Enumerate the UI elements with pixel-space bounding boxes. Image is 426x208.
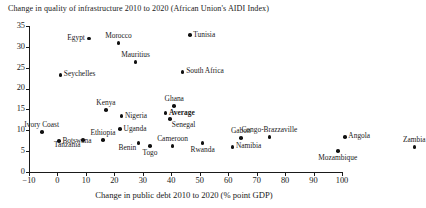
data-point-label: Angola — [348, 132, 370, 140]
x-axis-tick-label: 20 — [99, 177, 129, 185]
data-point — [87, 37, 91, 41]
data-point-label: Tunisia — [193, 31, 215, 39]
data-point-label: Seychelles — [64, 70, 96, 78]
data-point — [268, 135, 272, 139]
data-point — [118, 127, 122, 131]
data-point-label: Average — [169, 109, 195, 117]
y-axis-tick-label: 20 — [3, 84, 25, 92]
x-axis-tick-label: −10 — [14, 177, 44, 185]
data-point-label: South Africa — [186, 67, 224, 75]
y-axis-tick-label: 10 — [3, 126, 25, 134]
x-axis-tick-label: 50 — [185, 177, 215, 185]
y-axis-tick-label: 35 — [3, 22, 25, 30]
x-axis-tick-label: 70 — [242, 177, 272, 185]
data-point — [59, 73, 63, 77]
data-point-label: Ivory Coast — [24, 121, 59, 129]
data-point-label: Congo-Brazzaville — [241, 126, 297, 134]
x-axis-tick-label: 100 — [327, 177, 357, 185]
y-axis-tick-label: 15 — [3, 105, 25, 113]
y-axis-tick-label: 25 — [3, 64, 25, 72]
x-axis-tick-label: 0 — [42, 177, 72, 185]
x-axis — [29, 172, 343, 173]
data-point-label: Nigeria — [125, 112, 147, 120]
data-point-label: Kenya — [96, 99, 115, 107]
data-point-label: Zambia — [403, 136, 426, 144]
x-axis-tick-label: 30 — [128, 177, 158, 185]
x-axis-tick-label: 60 — [213, 177, 243, 185]
data-point-label: Togo — [142, 149, 157, 157]
y-axis-tick-label: 0 — [3, 168, 25, 176]
data-point — [137, 141, 141, 145]
data-point-label: Uganda — [124, 125, 147, 133]
data-point-label: Tanzania — [54, 141, 81, 149]
data-point-label: Ghana — [165, 95, 184, 103]
data-point-label: Morocco — [105, 32, 132, 40]
data-point-label: Namibia — [236, 142, 261, 150]
x-axis-tick-label: 90 — [299, 177, 329, 185]
y-axis-tick-label: 5 — [3, 147, 25, 155]
data-point-label: Senegal — [172, 121, 195, 129]
plot-area — [29, 26, 342, 172]
data-point — [343, 135, 347, 139]
data-point — [101, 138, 105, 142]
data-point — [120, 114, 124, 118]
x-axis-tick-label: 40 — [156, 177, 186, 185]
data-point-label: Mauritius — [121, 51, 150, 59]
x-axis-tick-label: 10 — [71, 177, 101, 185]
data-point-label: Mozambique — [318, 154, 357, 162]
data-point — [413, 145, 417, 149]
data-point-label: Cameroon — [157, 135, 188, 143]
data-point — [104, 108, 108, 112]
x-axis-title: Change in public debt 2010 to 2020 (% po… — [0, 190, 368, 200]
data-point — [188, 33, 192, 37]
data-point — [40, 130, 44, 134]
data-point-label: Rwanda — [191, 146, 215, 154]
y-axis-tick-label: 30 — [3, 43, 25, 51]
data-point — [81, 138, 85, 142]
x-axis-tick-label: 80 — [270, 177, 300, 185]
chart-title: Change in quality of infrastructure 2010… — [8, 3, 269, 14]
data-point — [231, 145, 235, 149]
data-point — [239, 136, 243, 140]
data-point-label: Benin — [119, 144, 137, 152]
data-point-label: Ethiopia — [90, 129, 115, 137]
data-point-label: Egypt — [67, 34, 85, 42]
